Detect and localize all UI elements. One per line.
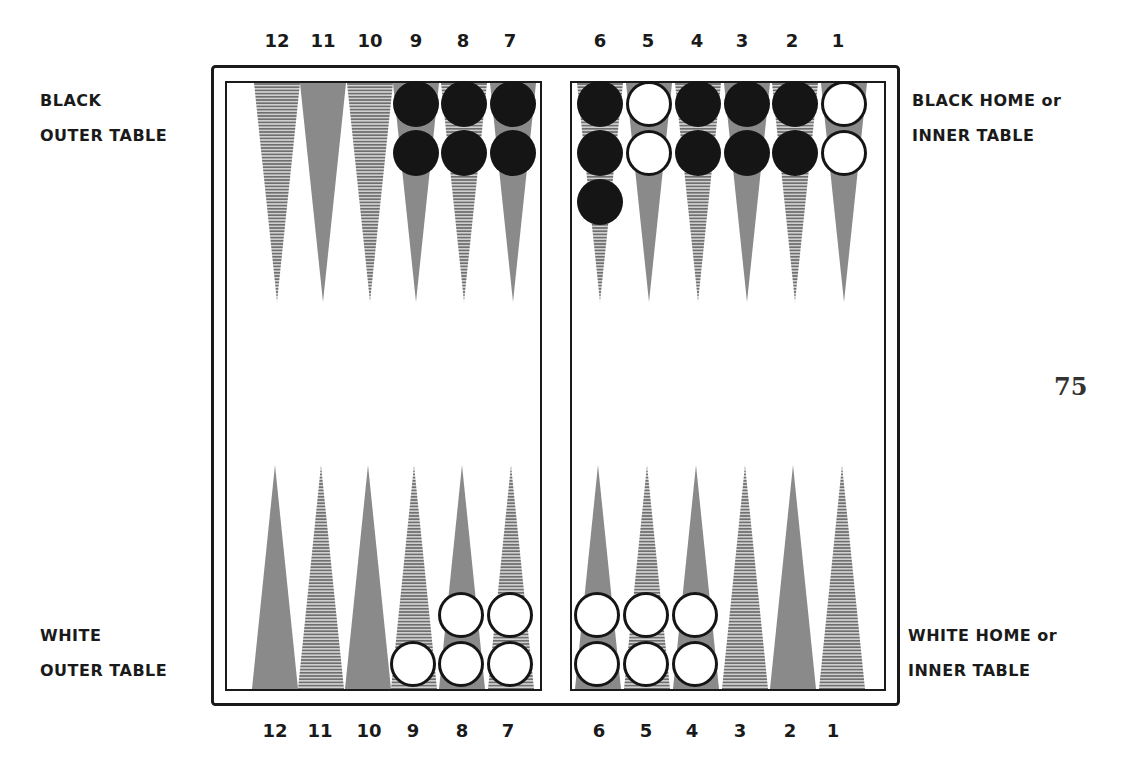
- black-checker-point-7[interactable]: [490, 81, 536, 127]
- white-checker-point-8[interactable]: [440, 594, 483, 637]
- point-bottom-2: [770, 465, 816, 689]
- white-checker-point-5[interactable]: [625, 594, 668, 637]
- black-checker-point-3[interactable]: [724, 130, 770, 176]
- point-bottom-10: [345, 465, 391, 689]
- black-checker-point-9[interactable]: [393, 130, 439, 176]
- white-checker-point-7[interactable]: [489, 594, 532, 637]
- white-checker-point-1[interactable]: [823, 132, 866, 175]
- point-bottom-12: [252, 465, 298, 689]
- black-checker-point-6[interactable]: [577, 81, 623, 127]
- white-checker-point-5[interactable]: [628, 83, 671, 126]
- white-checker-point-8[interactable]: [440, 643, 483, 686]
- black-checker-point-8[interactable]: [441, 81, 487, 127]
- white-checker-point-5[interactable]: [628, 132, 671, 175]
- white-checker-point-1[interactable]: [823, 83, 866, 126]
- point-bottom-3: [722, 465, 768, 689]
- white-checker-point-9[interactable]: [392, 643, 435, 686]
- bottom-points: [252, 465, 865, 689]
- white-checker-point-6[interactable]: [576, 594, 619, 637]
- point-top-10: [347, 83, 393, 302]
- black-checker-point-9[interactable]: [393, 81, 439, 127]
- black-checker-point-7[interactable]: [490, 130, 536, 176]
- black-checker-point-2[interactable]: [772, 81, 818, 127]
- point-bottom-11: [298, 465, 344, 689]
- backgammon-board: [0, 0, 1144, 775]
- white-checker-point-4[interactable]: [674, 643, 717, 686]
- white-checker-point-5[interactable]: [625, 643, 668, 686]
- white-checker-point-7[interactable]: [489, 643, 532, 686]
- black-checker-point-6[interactable]: [577, 130, 623, 176]
- point-top-12: [254, 83, 300, 302]
- black-checker-point-4[interactable]: [675, 81, 721, 127]
- white-checker-point-6[interactable]: [576, 643, 619, 686]
- black-checker-point-8[interactable]: [441, 130, 487, 176]
- black-checker-point-2[interactable]: [772, 130, 818, 176]
- top-points: [254, 83, 867, 302]
- white-checker-point-4[interactable]: [674, 594, 717, 637]
- black-checker-point-6[interactable]: [577, 179, 623, 225]
- black-checker-point-4[interactable]: [675, 130, 721, 176]
- point-bottom-1: [819, 465, 865, 689]
- black-checker-point-3[interactable]: [724, 81, 770, 127]
- point-top-11: [300, 83, 346, 302]
